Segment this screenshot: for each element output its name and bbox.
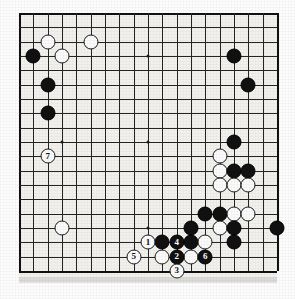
grid-line-vertical <box>205 13 206 271</box>
stone-white-move-5[interactable]: 5 <box>126 249 141 264</box>
stone-white[interactable] <box>212 149 227 164</box>
grid-line-vertical <box>263 13 264 271</box>
stone-black[interactable] <box>212 206 227 221</box>
stone-white[interactable] <box>241 206 256 221</box>
move-number: 3 <box>174 266 179 275</box>
grid-line-vertical <box>248 13 249 271</box>
stone-black[interactable] <box>40 106 55 121</box>
stone-black[interactable] <box>226 220 241 235</box>
go-diagram-page: 7145263 <box>0 0 295 299</box>
stone-black[interactable] <box>226 134 241 149</box>
grid-line-horizontal <box>19 199 277 200</box>
grid-line-vertical <box>177 13 178 271</box>
stone-white[interactable] <box>241 177 256 192</box>
stone-white[interactable] <box>40 34 55 49</box>
stone-white[interactable] <box>212 177 227 192</box>
stone-black[interactable] <box>155 235 170 250</box>
stone-white[interactable] <box>54 220 69 235</box>
stone-white[interactable] <box>212 163 227 178</box>
move-number: 6 <box>203 252 208 261</box>
stone-white[interactable] <box>212 220 227 235</box>
stone-white[interactable] <box>198 235 213 250</box>
stone-white-move-1[interactable]: 1 <box>140 235 155 250</box>
stone-black[interactable] <box>241 77 256 92</box>
stone-black[interactable] <box>226 163 241 178</box>
go-board[interactable]: 7145263 <box>19 13 277 282</box>
stone-black[interactable] <box>226 235 241 250</box>
grid-line-vertical <box>162 13 163 271</box>
stone-black-move-4[interactable]: 4 <box>169 235 184 250</box>
stone-white[interactable] <box>83 34 98 49</box>
stone-black[interactable] <box>183 235 198 250</box>
grid-line-horizontal <box>19 156 277 157</box>
star-point <box>146 226 149 229</box>
grid-line-horizontal <box>19 257 277 258</box>
stone-black[interactable] <box>241 163 256 178</box>
stone-black-move-6[interactable]: 6 <box>198 249 213 264</box>
stone-black[interactable] <box>183 220 198 235</box>
stone-white[interactable] <box>226 177 241 192</box>
move-number: 1 <box>146 237 151 246</box>
grid-line-horizontal <box>19 271 277 273</box>
star-point <box>60 140 63 143</box>
move-number: 5 <box>131 252 136 261</box>
stone-white-move-7[interactable]: 7 <box>40 149 55 164</box>
stone-black[interactable] <box>198 206 213 221</box>
star-point <box>146 54 149 57</box>
board-bottom-smudge <box>19 277 277 283</box>
stone-black[interactable] <box>269 220 284 235</box>
stone-black[interactable] <box>226 48 241 63</box>
stone-black[interactable] <box>40 77 55 92</box>
star-point <box>146 140 149 143</box>
move-number: 2 <box>174 252 179 261</box>
move-number: 4 <box>174 237 179 246</box>
stone-black-move-2[interactable]: 2 <box>169 249 184 264</box>
stone-white[interactable] <box>226 206 241 221</box>
stone-white[interactable] <box>155 249 170 264</box>
stone-white[interactable] <box>183 249 198 264</box>
stone-black[interactable] <box>26 48 41 63</box>
move-number: 7 <box>45 151 50 160</box>
stone-white[interactable] <box>54 48 69 63</box>
